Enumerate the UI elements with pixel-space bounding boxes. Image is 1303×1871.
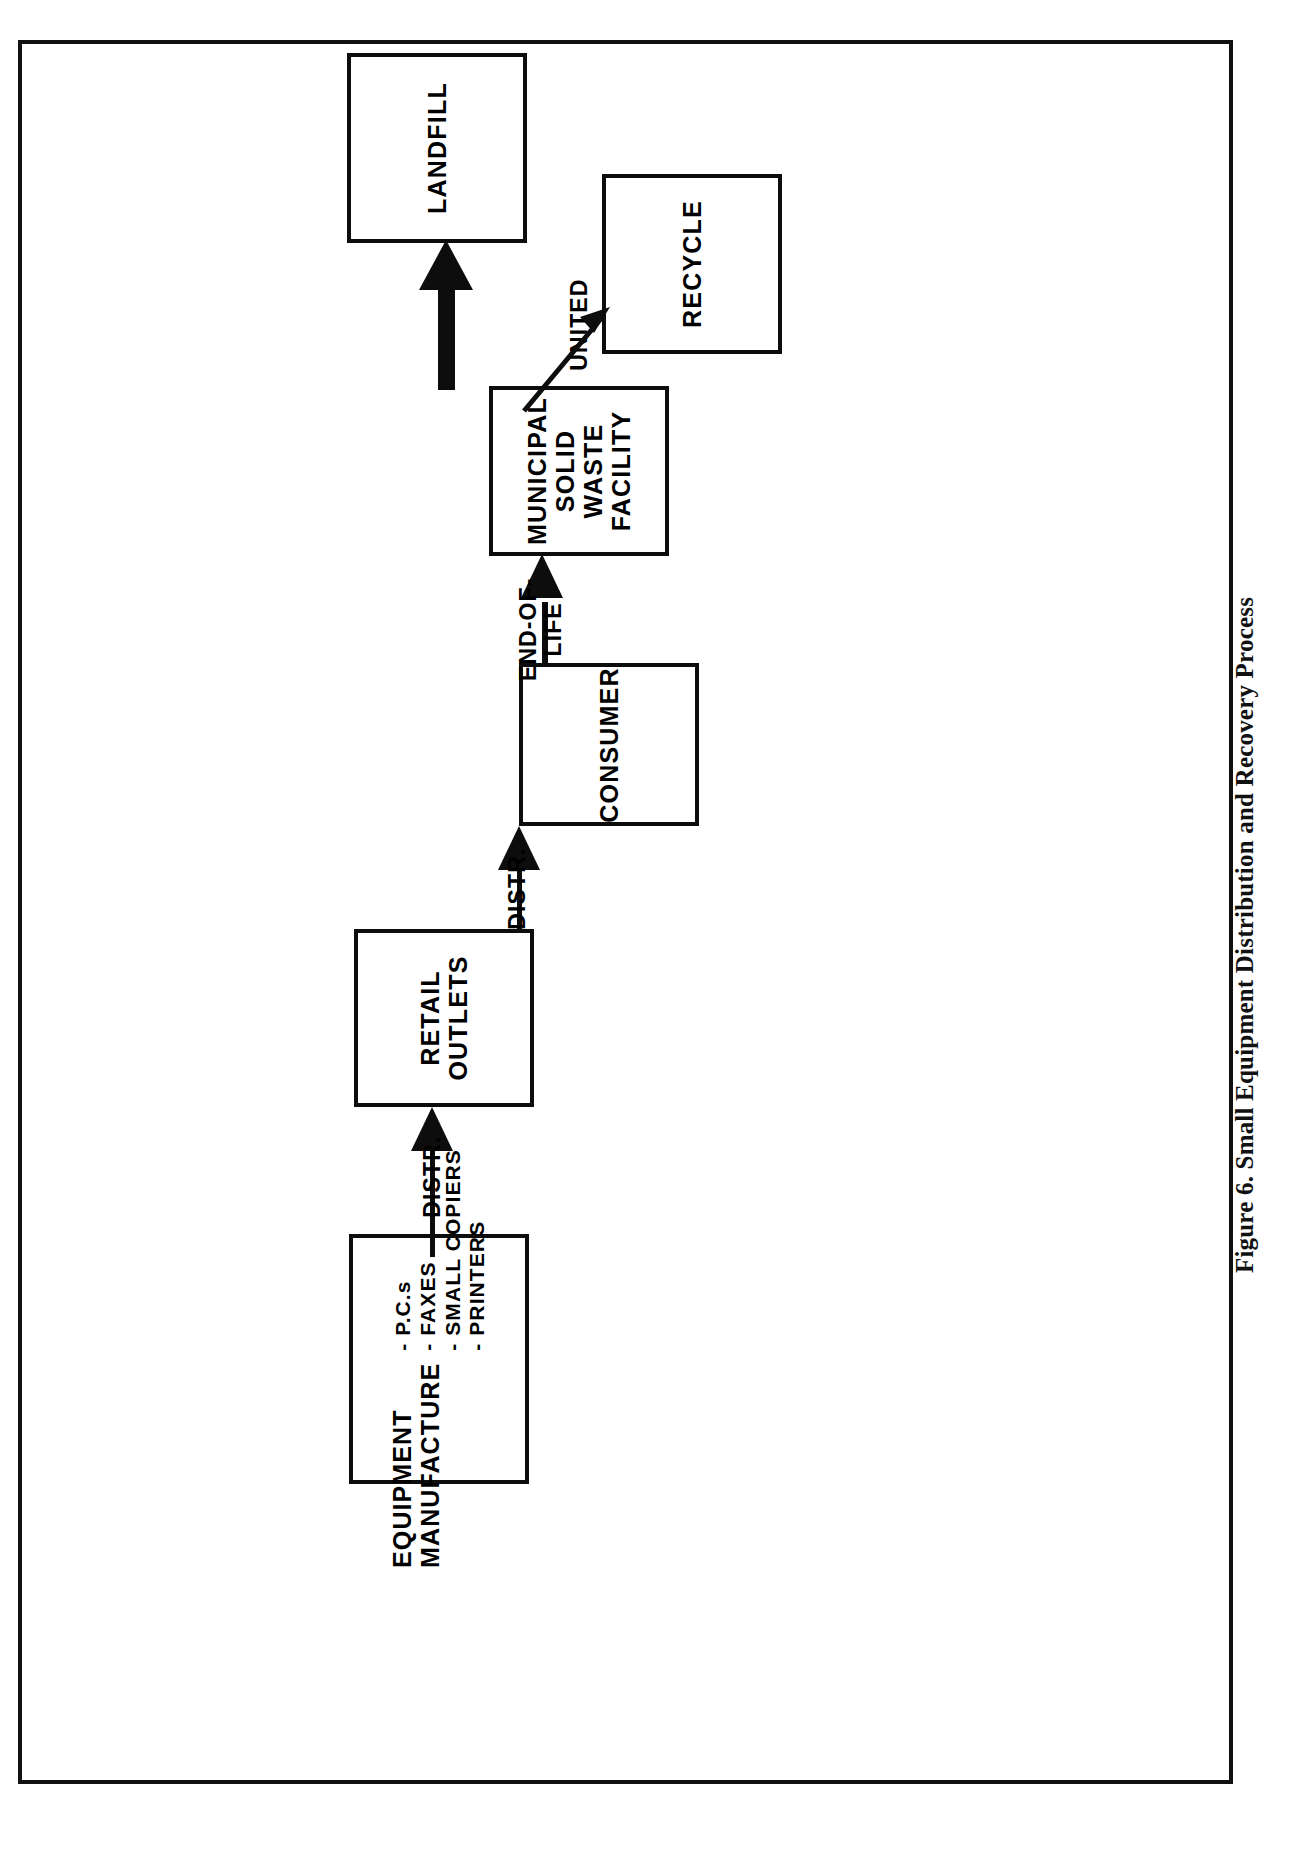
arrow-head-icon (419, 240, 473, 290)
node-consumer-label: CONSUMER (595, 667, 623, 822)
arrow-head-icon (580, 307, 610, 333)
figure-page-frame: LANDFILL RECYCLE MUNICIPAL SOLID WASTE F… (18, 40, 1233, 1784)
edge-label-end-of-life-line2: LIFE (542, 578, 567, 682)
edge-label-distr-manufacture-retail: DISTR. (420, 1136, 445, 1218)
node-retail-outlets[interactable]: RETAIL OUTLETS (354, 929, 534, 1107)
node-recycle-text: RECYCLE (678, 200, 706, 328)
node-landfill[interactable]: LANDFILL (347, 53, 527, 243)
node-manufacture-title-line2: MANUFACTURE (416, 1363, 444, 1568)
node-landfill-text: LANDFILL (423, 82, 451, 214)
node-manufacture-title-line1: EQUIPMENT (388, 1363, 416, 1568)
edge-label-end-of-life: END-OF- LIFE (516, 578, 567, 682)
node-landfill-label: LANDFILL (423, 82, 451, 214)
node-consumer-text: CONSUMER (595, 667, 623, 822)
node-manufacture-title: EQUIPMENT MANUFACTURE (388, 1363, 443, 1568)
node-msw-label-line3: WASTE (579, 397, 607, 545)
flowchart-diagram: LANDFILL RECYCLE MUNICIPAL SOLID WASTE F… (22, 44, 1229, 1780)
arrow-shaft (438, 290, 455, 390)
node-msw-label-line2: SOLID (551, 397, 579, 545)
edge-msw-to-recycle (502, 259, 632, 419)
node-msw-text: MUNICIPAL SOLID WASTE FACILITY (523, 397, 635, 545)
edge-label-end-of-life-line1: END-OF- (516, 578, 541, 682)
node-msw-label-line1: MUNICIPAL (523, 397, 551, 545)
node-retail-label-line2: OUTLETS (444, 955, 472, 1080)
node-retail-text: RETAIL OUTLETS (416, 955, 472, 1080)
edge-label-distr-retail-consumer: DISTR. (505, 848, 530, 930)
figure-caption: Figure 6. Small Equipment Distribution a… (1231, 597, 1259, 1273)
node-recycle-label: RECYCLE (678, 200, 706, 328)
node-retail-label-line1: RETAIL (416, 955, 444, 1080)
node-msw-label-line4: FACILITY (607, 397, 635, 545)
node-equipment-manufacture[interactable]: EQUIPMENT MANUFACTURE - P.C.s - FAXES - … (349, 1234, 529, 1484)
node-consumer[interactable]: CONSUMER (519, 663, 699, 826)
